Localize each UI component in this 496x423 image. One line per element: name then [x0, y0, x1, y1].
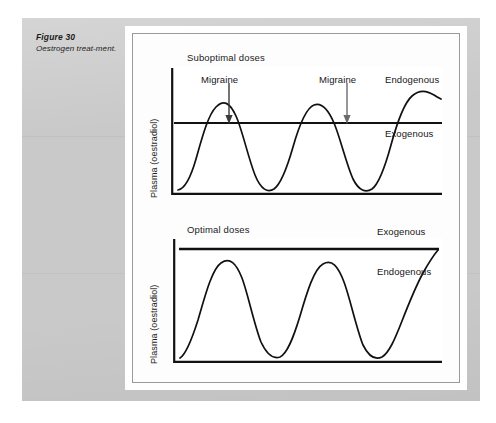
- figure-root: Figure 30 Oestrogen treat-ment. Suboptim…: [0, 0, 496, 423]
- series-label-exogenous-optimal: Exogenous: [377, 226, 425, 237]
- annotation-migraine-2: Migraine: [319, 74, 356, 85]
- y-axis-label-suboptimal: Plasma (oestradiol): [149, 119, 159, 198]
- figure-caption: Figure 30 Oestrogen treat-ment.: [36, 32, 118, 54]
- chart-title-optimal: Optimal doses: [187, 224, 250, 235]
- series-label-exogenous-suboptimal: Exogenous: [385, 128, 433, 139]
- migraine-arrow-2: [343, 83, 350, 124]
- plot-area-optimal: [173, 238, 443, 363]
- chart-title-suboptimal: Suboptimal doses: [187, 52, 265, 63]
- figure-caption-title: Figure 30: [36, 32, 118, 43]
- figure-card: Suboptimal doses Plasma (oestradiol): [126, 27, 466, 389]
- axis-lines-optimal: [174, 239, 442, 362]
- annotation-migraine-1: Migraine: [201, 74, 238, 85]
- y-axis-label-optimal: Plasma (oestradiol): [149, 285, 159, 364]
- figure-caption-body: Oestrogen treat-ment.: [36, 44, 118, 54]
- figure-card-inner: Suboptimal doses Plasma (oestradiol): [132, 33, 460, 383]
- series-label-endogenous-suboptimal: Endogenous: [385, 74, 439, 85]
- series-label-endogenous-optimal: Endogenous: [377, 266, 431, 277]
- chart-optimal: Optimal doses Plasma (oestradiol) Exogen…: [133, 224, 459, 384]
- series-endogenous-suboptimal: [178, 91, 441, 191]
- chart-suboptimal: Suboptimal doses Plasma (oestradiol): [133, 52, 459, 222]
